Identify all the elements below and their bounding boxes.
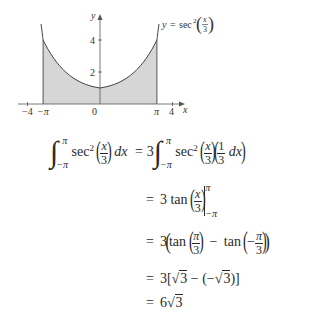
lower-limit: −π [56, 160, 68, 170]
lower-limit: −π [160, 160, 172, 170]
big-rparen: ) [264, 229, 270, 253]
lparen: ( [214, 138, 219, 164]
power: 2 [89, 143, 94, 153]
derivation-line-3: =3(tan (π3) − tan (−π3)) [146, 230, 268, 256]
upper-limit: π [166, 136, 172, 146]
equals: = [146, 271, 154, 286]
text-b: − (− [187, 271, 214, 286]
curve-label-func: sec [179, 19, 192, 30]
power: 2 [193, 143, 198, 153]
integral-limits: π−π [162, 136, 172, 170]
coef: 3 [147, 144, 154, 159]
x-tick-label-0: 0 [92, 106, 97, 117]
tan-func: tan [224, 234, 241, 249]
x-tick-label-neg4: −4 [22, 106, 33, 117]
tan-func: tan [170, 192, 187, 207]
curve-label-lparen: ( [196, 14, 202, 35]
lparen: ( [200, 138, 205, 164]
rparen: ) [199, 228, 204, 254]
curve-label-num: x [202, 15, 207, 24]
curve-label-eq: = [170, 19, 176, 30]
sqrt: √3 [172, 272, 188, 286]
equals: = [146, 234, 154, 249]
x-axis-label: x [182, 104, 188, 115]
curve-label-rparen: ) [208, 14, 214, 35]
lparen: ( [243, 228, 248, 254]
x-tick-label-negpi: −π [37, 106, 50, 117]
equals: = [146, 295, 154, 310]
bar-limits: π−π [205, 183, 217, 219]
sqrt-icon: √ [167, 295, 175, 310]
sqrt: √3 [167, 296, 183, 310]
derivation-line-5: =6√3 [146, 296, 183, 310]
area-graph: −4 −π 0 π 4 x 2 4 y y = sec 2 ( x 3 ) [0, 0, 312, 125]
lower-limit: −π [205, 209, 217, 219]
derivation-line-2: =3 tan (x3)π−π [146, 183, 217, 219]
equals: = [146, 192, 154, 207]
curve-label-den: 3 [203, 25, 207, 34]
upper-limit: π [62, 136, 68, 146]
minus: − [209, 234, 217, 249]
coef: 3 [160, 192, 167, 207]
x-tick-label-4: 4 [169, 106, 174, 117]
text-a: 3[ [160, 271, 172, 286]
y-axis-label: y [90, 10, 96, 21]
sqrt: √3 [215, 272, 231, 286]
upper-limit: π [205, 183, 217, 193]
big-lparen: ( [165, 229, 171, 253]
curve-label-y: y [161, 19, 167, 30]
derivation-line-4: =3[√3 − (−√3)] [146, 272, 240, 286]
x-tick-label-pi: π [154, 106, 160, 117]
evaluation-bar: π−π [204, 183, 217, 219]
lparen: ( [96, 138, 101, 164]
y-tick-label-2: 2 [90, 67, 95, 78]
y-axis-arrow-icon [98, 14, 103, 20]
radicand: 3 [175, 294, 183, 310]
integral-limits: π−π [58, 136, 68, 170]
neg: − [247, 234, 255, 249]
text-c: )] [230, 271, 239, 286]
rparen: ) [241, 138, 246, 164]
tan-func: tan [169, 234, 186, 249]
dx: dx [114, 144, 127, 159]
equals: = [135, 144, 143, 159]
lparen: ( [190, 186, 195, 212]
coef: 6 [160, 295, 167, 310]
sec-func: sec [71, 144, 89, 159]
derivation-line-1: ∫π−π sec2 (x3) dx =3∫π−π sec2 (x3)(13 dx… [50, 136, 245, 170]
lparen: ( [188, 228, 193, 254]
sec-func: sec [175, 144, 193, 159]
rparen: ) [107, 138, 112, 164]
y-tick-label-4: 4 [90, 35, 95, 46]
